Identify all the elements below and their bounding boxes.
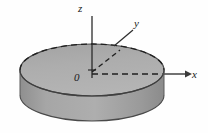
z-axis-label: z bbox=[78, 3, 82, 14]
y-axis-label: y bbox=[134, 18, 139, 29]
y-label-leader-line bbox=[114, 30, 133, 46]
origin-label: 0 bbox=[74, 72, 80, 83]
x-axis-arrowhead-icon bbox=[185, 71, 192, 78]
x-axis-label: x bbox=[192, 69, 197, 80]
cylinder-diagram-svg bbox=[0, 0, 208, 133]
figure-container: z y x 0 bbox=[0, 0, 208, 133]
